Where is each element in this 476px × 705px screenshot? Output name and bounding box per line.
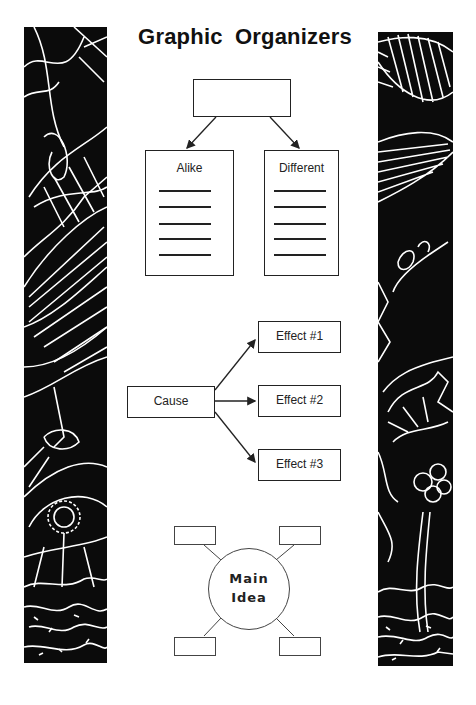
effect-box-1[interactable]: Effect #1 bbox=[258, 321, 341, 353]
different-column[interactable]: Different bbox=[264, 150, 339, 276]
cause-box[interactable]: Cause bbox=[127, 386, 215, 418]
alike-line[interactable] bbox=[159, 206, 211, 208]
main-idea-line-2: Idea bbox=[209, 589, 289, 606]
alike-label: Alike bbox=[146, 161, 233, 175]
alike-line[interactable] bbox=[159, 223, 211, 225]
cause-label: Cause bbox=[128, 394, 214, 408]
different-line[interactable] bbox=[274, 190, 326, 192]
left-botanical-border bbox=[24, 27, 107, 663]
effect-box-3[interactable]: Effect #3 bbox=[258, 449, 341, 481]
detail-box-bottom-left[interactable] bbox=[174, 637, 216, 656]
alike-line[interactable] bbox=[159, 238, 211, 240]
effect-label-3: Effect #3 bbox=[259, 457, 340, 471]
effect-label-1: Effect #1 bbox=[259, 329, 340, 343]
different-line[interactable] bbox=[274, 238, 326, 240]
alike-line[interactable] bbox=[159, 254, 211, 256]
main-idea-circle[interactable]: Main Idea bbox=[208, 548, 290, 630]
different-line[interactable] bbox=[274, 223, 326, 225]
alike-line[interactable] bbox=[159, 190, 211, 192]
main-idea-line-1: Main bbox=[209, 570, 289, 587]
right-botanical-border bbox=[378, 32, 453, 666]
detail-box-top-left[interactable] bbox=[174, 526, 216, 545]
page-title: Graphic Organizers bbox=[115, 24, 375, 50]
different-line[interactable] bbox=[274, 254, 326, 256]
effect-box-2[interactable]: Effect #2 bbox=[258, 385, 341, 417]
detail-box-top-right[interactable] bbox=[279, 526, 321, 545]
different-label: Different bbox=[265, 161, 338, 175]
effect-label-2: Effect #2 bbox=[259, 393, 340, 407]
different-line[interactable] bbox=[274, 206, 326, 208]
leaf-pattern-icon bbox=[378, 32, 453, 666]
topic-box[interactable] bbox=[193, 79, 291, 117]
leaf-pattern-icon bbox=[24, 27, 107, 663]
alike-column[interactable]: Alike bbox=[145, 150, 234, 276]
detail-box-bottom-right[interactable] bbox=[279, 637, 321, 656]
